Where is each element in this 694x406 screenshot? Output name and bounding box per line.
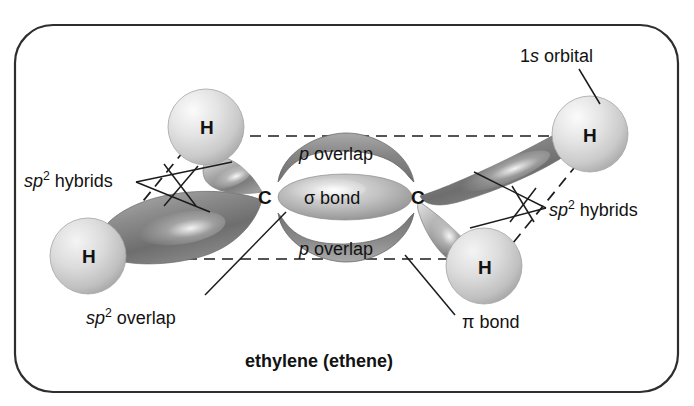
label-sigma-bond: σ bond xyxy=(304,189,360,207)
atom-label-hydrogen-bottom-right: H xyxy=(478,258,492,277)
ethylene-orbital-figure: 1s orbital p overlap p overlap σ bond π … xyxy=(0,0,694,406)
atom-label-carbon-left: C xyxy=(258,188,272,207)
label-sp2-overlap: sp2 overlap xyxy=(86,307,176,327)
atom-label-hydrogen-top-right: H xyxy=(583,126,597,145)
label-p-overlap-bottom: p overlap xyxy=(299,240,373,258)
atom-label-hydrogen-top-left: H xyxy=(200,118,214,137)
atom-label-hydrogen-bottom-left: H xyxy=(82,247,96,266)
label-pi-bond: π bond xyxy=(462,313,519,331)
atom-label-carbon-right: C xyxy=(411,188,425,207)
label-p-overlap-top: p overlap xyxy=(299,145,373,163)
label-sp2-hybrids-right: sp2 hybrids xyxy=(549,199,638,219)
label-1s-orbital: 1s orbital xyxy=(520,47,593,65)
figure-caption: ethylene (ethene) xyxy=(245,352,393,370)
label-sp2-hybrids-left: sp2 hybrids xyxy=(24,170,113,190)
